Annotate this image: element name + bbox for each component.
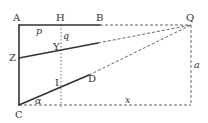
label-a: A [12, 12, 21, 23]
label-x: x [125, 94, 131, 105]
label-c: C [15, 109, 23, 120]
label-q-var: q [63, 30, 69, 41]
label-q: Q [186, 12, 194, 23]
geometry-diagram: A H B Q Z Y I D C p q a x α [0, 0, 208, 123]
line-c-d [19, 75, 89, 105]
label-b: B [96, 12, 103, 23]
label-z: Z [9, 52, 16, 63]
label-i: I [55, 77, 59, 88]
label-a-var: a [194, 59, 200, 70]
label-p: p [36, 25, 42, 36]
line-z-extension-to-q [98, 25, 191, 43]
label-h: H [56, 12, 65, 23]
line-d-extension-to-q [89, 25, 191, 75]
label-d: D [88, 73, 96, 84]
label-alpha: α [35, 95, 42, 106]
label-y: Y [52, 41, 60, 52]
